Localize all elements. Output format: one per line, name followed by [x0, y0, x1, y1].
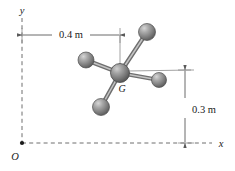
y-axis-label: y: [19, 5, 25, 16]
x-axis-label: x: [218, 138, 224, 149]
figure-canvas: O x y 0.4 m 0.3 m: [0, 0, 235, 171]
vertical-dimension: 0.3 m: [178, 70, 216, 143]
sphere-right: [152, 73, 167, 88]
physics-figure: O x y 0.4 m 0.3 m: [0, 0, 235, 171]
origin-label: O: [11, 151, 19, 162]
vertical-dimension-label: 0.3 m: [192, 104, 216, 115]
horizontal-dimension-label: 0.4 m: [59, 29, 83, 40]
horizontal-dimension: 0.4 m: [22, 28, 120, 43]
spheres-group: [78, 24, 167, 116]
origin-point: [20, 141, 24, 145]
sphere-bottom-left: [93, 99, 110, 116]
sphere-top-right: [139, 24, 156, 41]
sphere-center-mass: [111, 64, 130, 83]
center-of-mass-label: G: [118, 83, 125, 94]
sphere-left: [78, 52, 94, 68]
